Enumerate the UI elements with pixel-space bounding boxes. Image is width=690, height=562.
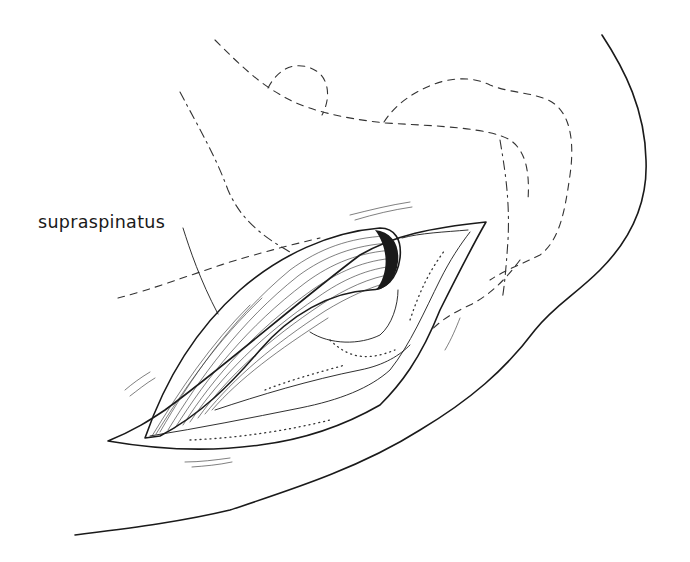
anatomical-illustration: supraspinatus — [0, 0, 690, 562]
posterior-dashed-line — [118, 238, 320, 298]
incision-inner-lower — [150, 232, 470, 436]
stipple-3 — [190, 420, 330, 440]
label-leader-line — [183, 228, 218, 314]
supraspinatus-label: supraspinatus — [38, 212, 165, 232]
acromion-outline — [215, 40, 528, 200]
coracoid-outline — [268, 66, 328, 115]
line-drawing — [0, 0, 690, 562]
scapular-spine-line — [180, 92, 290, 252]
humeral-head-outline — [384, 79, 572, 280]
tendon-loop — [310, 290, 398, 342]
supraspinatus-muscle — [145, 228, 400, 438]
stipple-1 — [330, 340, 395, 357]
stipple-4 — [265, 365, 345, 390]
lateral-dashed-line — [430, 260, 520, 332]
